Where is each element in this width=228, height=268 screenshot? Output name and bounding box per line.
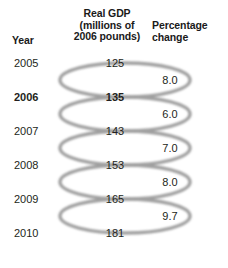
- column-header-year: Year: [12, 35, 60, 47]
- gdp-growth-table: Year Real GDP (millions of 2006 pounds) …: [0, 0, 228, 268]
- cell-percentage-change-3: 8.0: [150, 176, 190, 188]
- column-header-real-gdp-line3: 2006 pounds): [62, 31, 152, 43]
- cell-year-2010: 2010: [14, 227, 60, 239]
- column-header-real-gdp: Real GDP (millions of 2006 pounds): [62, 8, 152, 43]
- cell-year-2006: 2006: [14, 91, 60, 103]
- column-header-percentage-change: Percentage change: [152, 20, 226, 43]
- cell-percentage-change-1: 6.0: [150, 108, 190, 120]
- cell-percentage-change-2: 7.0: [150, 142, 190, 154]
- column-header-percentage-change-line1: Percentage: [152, 20, 226, 32]
- cell-year-2007: 2007: [14, 125, 60, 137]
- column-header-percentage-change-line2: change: [152, 32, 226, 44]
- column-header-year-label: Year: [12, 35, 60, 47]
- cell-real-gdp-2009: 165: [92, 193, 138, 205]
- cell-percentage-change-0: 8.0: [150, 74, 190, 86]
- column-header-real-gdp-line1: Real GDP: [62, 8, 152, 20]
- cell-year-2008: 2008: [14, 159, 60, 171]
- cell-real-gdp-2007: 143: [92, 125, 138, 137]
- cell-real-gdp-2006: 135: [92, 91, 138, 103]
- cell-year-2005: 2005: [14, 57, 60, 69]
- cell-real-gdp-2005: 125: [92, 57, 138, 69]
- cell-percentage-change-4: 9.7: [150, 210, 190, 222]
- cell-real-gdp-2008: 153: [92, 159, 138, 171]
- cell-real-gdp-2010: 181: [92, 227, 138, 239]
- cell-year-2009: 2009: [14, 193, 60, 205]
